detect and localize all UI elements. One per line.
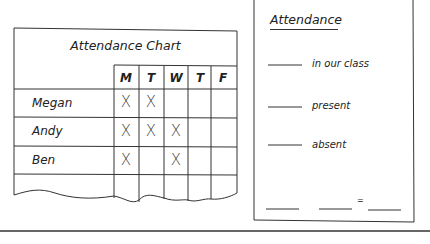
student-name-andy: Andy	[32, 124, 63, 138]
attendance-chart-graphic	[0, 0, 430, 244]
student-name-megan: Megan	[32, 96, 72, 110]
attendance-mark: X	[114, 122, 138, 140]
day-header-thursday: T	[188, 71, 212, 85]
attendance-mark: X	[164, 122, 188, 140]
equals-sign: =	[357, 196, 364, 205]
attendance-mark: X	[139, 122, 163, 140]
day-header-wednesday: W	[164, 71, 188, 85]
label-in-our-class: in our class	[312, 58, 369, 69]
attendance-mark: X	[114, 93, 138, 111]
attendance-mark: X	[114, 151, 138, 169]
day-header-monday: M	[114, 71, 138, 85]
attendance-mark: X	[139, 93, 163, 111]
day-header-tuesday: T	[139, 71, 163, 85]
chart-title: Attendance Chart	[14, 38, 237, 53]
label-present: present	[312, 100, 350, 111]
worksheet-title: Attendance	[270, 12, 338, 30]
label-absent: absent	[312, 139, 346, 150]
attendance-mark: X	[164, 151, 188, 169]
student-name-ben: Ben	[32, 153, 55, 167]
day-header-friday: F	[211, 71, 235, 85]
